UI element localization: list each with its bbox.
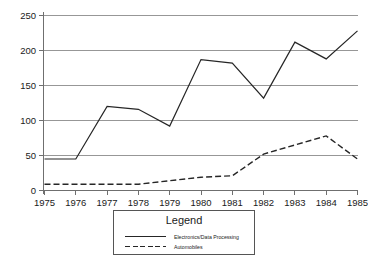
x-tick-label-1983: 1983 xyxy=(284,197,305,208)
data-series xyxy=(45,31,358,184)
line-chart: 250 200 150 100 50 0 1975 1976 1977 1978 xyxy=(0,0,368,268)
x-tick-label-1985: 1985 xyxy=(347,197,368,208)
x-tick-label-1980: 1980 xyxy=(190,197,211,208)
x-tick-label-1978: 1978 xyxy=(128,197,149,208)
chart-figure: 250 200 150 100 50 0 1975 1976 1977 1978 xyxy=(0,0,368,268)
y-tick-label-250: 250 xyxy=(20,10,36,21)
x-axis: 1975 1976 1977 1978 1979 1980 1981 1982 … xyxy=(34,191,368,209)
x-tick-label-1976: 1976 xyxy=(65,197,86,208)
y-tick-label-100: 100 xyxy=(20,115,36,126)
x-tick-label-1975: 1975 xyxy=(34,197,55,208)
gridlines xyxy=(43,16,358,191)
legend: Legend Electronics/Data Processing Autom… xyxy=(114,211,255,255)
y-axis: 250 200 150 100 50 0 xyxy=(20,10,43,196)
x-tick-label-1984: 1984 xyxy=(316,197,337,208)
y-tick-label-200: 200 xyxy=(20,45,36,56)
legend-label-automobiles: Automobiles xyxy=(174,244,203,250)
y-tick-label-0: 0 xyxy=(31,185,36,196)
x-tick-label-1982: 1982 xyxy=(253,197,274,208)
x-tick-label-1981: 1981 xyxy=(222,197,243,208)
x-tick-label-1977: 1977 xyxy=(97,197,118,208)
legend-label-electronics-data-processing: Electronics/Data Processing xyxy=(174,234,239,240)
y-tick-label-50: 50 xyxy=(25,150,36,161)
x-tick-label-1979: 1979 xyxy=(159,197,180,208)
series-line-automobiles xyxy=(45,136,358,184)
legend-title: Legend xyxy=(166,214,203,226)
y-tick-label-150: 150 xyxy=(20,80,36,91)
